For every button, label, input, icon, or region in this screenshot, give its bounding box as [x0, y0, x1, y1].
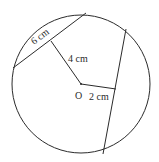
label-2cm: 2 cm — [89, 91, 109, 102]
diagram-canvas: 6 cm 4 cm O 2 cm — [0, 0, 159, 162]
circle-chord-diagram: 6 cm 4 cm O 2 cm — [0, 0, 159, 162]
label-4cm: 4 cm — [68, 53, 88, 64]
perpendicular-2cm — [81, 84, 116, 89]
label-6cm: 6 cm — [29, 26, 52, 47]
center-point — [80, 83, 82, 85]
label-center-O: O — [75, 90, 82, 101]
